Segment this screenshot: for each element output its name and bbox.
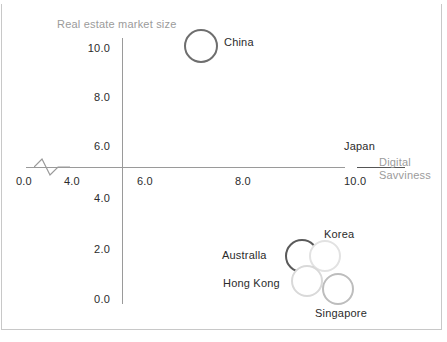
x-tick-10: 10.0 xyxy=(344,175,366,187)
frame-left-rule xyxy=(1,4,2,330)
x-axis-title-line1: Digital xyxy=(379,156,431,169)
y-tick-8: 8.0 xyxy=(72,91,110,103)
label-korea: Korea xyxy=(324,228,354,240)
frame-right-rule xyxy=(441,4,442,330)
y-axis-line xyxy=(122,38,123,304)
y-tick-2: 2.0 xyxy=(72,243,110,255)
label-hong-kong: Hong Kong xyxy=(223,277,280,289)
y-axis-title: Real estate market size xyxy=(57,18,177,30)
y-tick-0: 0.0 xyxy=(72,293,110,305)
x-tick-8: 8.0 xyxy=(235,175,251,187)
x-axis-line xyxy=(26,167,345,168)
label-china: China xyxy=(224,36,254,48)
frame-bottom-rule xyxy=(1,329,442,330)
x-tick-0: 0.0 xyxy=(16,175,32,187)
bubble-singapore[interactable] xyxy=(322,273,354,305)
y-tick-10: 10.0 xyxy=(72,42,110,54)
bubble-china[interactable] xyxy=(184,29,218,63)
bubble-hong-kong[interactable] xyxy=(291,265,323,297)
label-australia: Australla xyxy=(222,249,267,261)
y-tick-4: 4.0 xyxy=(72,192,110,204)
x-tick-4: 4.0 xyxy=(64,175,80,187)
label-singapore: Singapore xyxy=(315,307,367,319)
y-tick-6: 6.0 xyxy=(72,140,110,152)
x-axis-title: Digital Savviness xyxy=(379,156,431,182)
chart-canvas: Real estate market size Digital Savvines… xyxy=(0,0,447,342)
label-japan: Japan xyxy=(344,140,375,152)
x-tick-6: 6.0 xyxy=(137,175,153,187)
x-axis-title-line2: Savviness xyxy=(379,169,431,182)
